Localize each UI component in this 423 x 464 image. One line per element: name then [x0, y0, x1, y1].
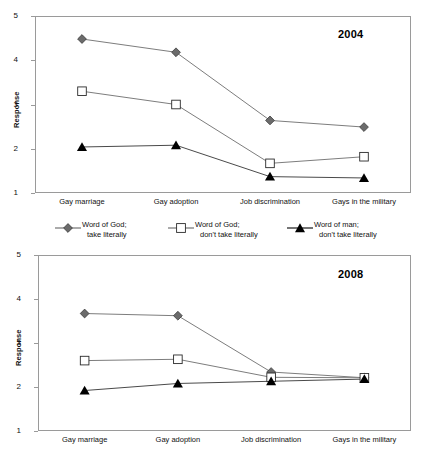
legend-label-1: Word of God; don't take literally [194, 220, 258, 239]
legend-item-word-of-man-not-literal: Word of man; don't take literally [287, 220, 377, 239]
data-point-open-square [80, 356, 89, 365]
chart-panel-2008: Response 12345 Gay marriageGay adoptionJ… [0, 250, 423, 464]
data-point-open-square [174, 355, 183, 364]
data-point-filled-diamond [78, 35, 87, 44]
data-point-open-square [78, 87, 87, 96]
series-layer-2008 [0, 250, 423, 464]
data-point-filled-diamond [360, 123, 369, 132]
two-panel-line-chart-figure: Response 12345 Gay marriageGay adoptionJ… [0, 0, 423, 464]
open-square-icon [168, 221, 194, 235]
filled-diamond-icon [55, 221, 81, 235]
chart-legend: Word of God; take literally Word of God;… [0, 219, 423, 249]
legend-item-word-of-god-literal: Word of God; take literally [55, 220, 127, 239]
data-point-filled-diamond [172, 48, 181, 57]
data-point-filled-diamond [173, 311, 182, 320]
series-line [82, 39, 364, 127]
series-line [82, 91, 364, 163]
series-line [82, 145, 364, 178]
chart-panel-2004: Response 12345 Gay marriageGay adoptionJ… [0, 0, 423, 215]
data-point-open-square [266, 159, 275, 168]
data-point-filled-diamond [266, 116, 275, 125]
legend-label-1-line1: Word of God; [195, 220, 239, 229]
data-point-filled-diamond [80, 309, 89, 318]
panel-year-label-2004: 2004 [338, 28, 363, 40]
legend-item-word-of-god-not-literal: Word of God; don't take literally [168, 220, 258, 239]
data-point-open-square [360, 152, 369, 161]
legend-label-0: Word of God; take literally [81, 220, 127, 239]
legend-label-1-line2: don't take literally [195, 230, 258, 240]
panel-year-label-2008: 2008 [338, 268, 363, 280]
legend-label-2-line2: don't take literally [314, 230, 377, 240]
legend-label-2: Word of man; don't take literally [313, 220, 377, 239]
legend-label-0-line1: Word of God; [82, 220, 126, 229]
legend-label-2-line1: Word of man; [314, 220, 359, 229]
legend-label-0-line2: take literally [82, 230, 127, 240]
series-line [85, 379, 365, 390]
filled-triangle-icon [287, 221, 313, 235]
data-point-open-square [172, 100, 181, 109]
